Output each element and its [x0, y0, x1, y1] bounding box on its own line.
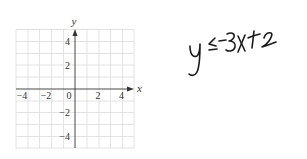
y-tick-label: 2 — [65, 60, 70, 71]
x-tick-label: 2 — [96, 90, 101, 101]
x-tick-labels: −4 −2 0 2 4 — [17, 90, 124, 101]
y-tick-label: −4 — [59, 131, 70, 142]
x-axis-label: x — [136, 82, 142, 94]
y-tick-label: 4 — [65, 36, 70, 47]
coordinate-plane: x y −4 −2 0 2 4 4 2 −2 −4 — [0, 0, 160, 159]
y-axis — [73, 29, 78, 148]
x-tick-label: −2 — [41, 90, 52, 101]
handwriting-strokes — [178, 22, 288, 82]
x-tick-label: 0 — [67, 90, 72, 101]
y-axis-arrow-icon — [73, 29, 78, 36]
x-tick-label: −4 — [17, 90, 28, 101]
x-axis-arrow-icon — [127, 87, 134, 92]
y-tick-label: −2 — [59, 107, 70, 118]
y-axis-label: y — [71, 15, 77, 27]
x-tick-label: 4 — [119, 90, 124, 101]
handwritten-inequality: y ≤ -3x + 2 — [178, 22, 288, 86]
